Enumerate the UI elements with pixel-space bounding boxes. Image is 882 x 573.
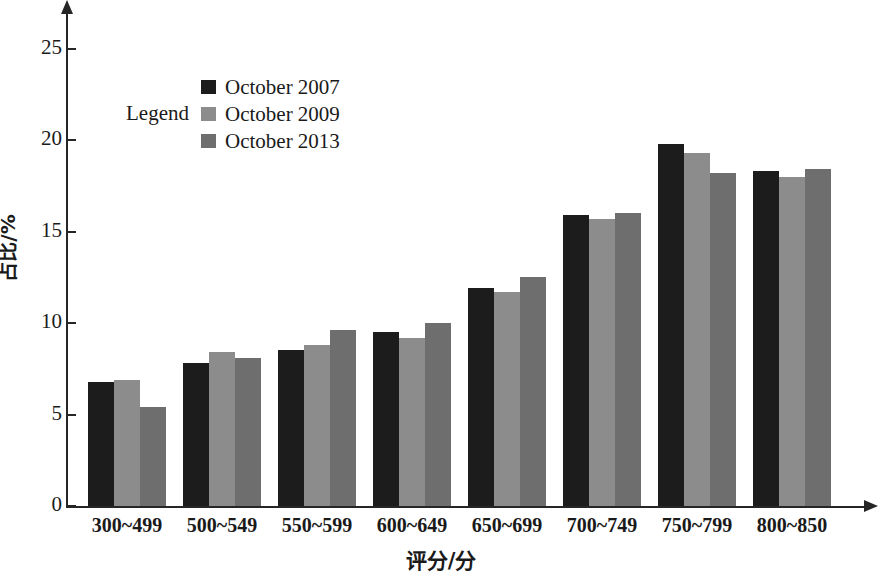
legend: Legend October 2007October 2009October 2… — [126, 74, 340, 153]
bar — [805, 169, 831, 506]
x-axis-arrowhead — [864, 500, 878, 512]
bar — [114, 380, 140, 506]
bar-chart: 0510152025 300~499500~549550~599600~6496… — [0, 0, 882, 573]
bar — [615, 213, 641, 506]
bar — [399, 338, 425, 506]
bar — [520, 277, 546, 506]
bar — [753, 171, 779, 506]
bar — [373, 332, 399, 506]
y-axis-tick-label: 10 — [41, 310, 62, 332]
y-axis-tick: 15 — [68, 231, 76, 233]
bar — [278, 350, 304, 506]
x-axis-title: 评分/分 — [0, 544, 882, 573]
legend-swatch — [201, 107, 216, 121]
bar — [589, 219, 615, 506]
bar — [779, 177, 805, 506]
legend-swatch — [201, 134, 216, 148]
legend-item: October 2009 — [201, 101, 340, 126]
x-axis-tick-label: 800~850 — [712, 514, 872, 537]
bar — [304, 345, 330, 506]
bar-group — [468, 12, 546, 506]
y-axis-tick: 25 — [68, 48, 76, 50]
bar — [468, 288, 494, 506]
y-axis-line — [66, 12, 68, 508]
legend-item: October 2013 — [201, 128, 340, 153]
bar — [425, 323, 451, 506]
legend-label: October 2007 — [225, 76, 340, 98]
bar — [88, 382, 114, 506]
legend-swatch — [201, 80, 216, 94]
bar-group — [658, 12, 736, 506]
bar — [209, 352, 235, 506]
y-axis-tick: 10 — [68, 322, 76, 324]
bar — [658, 144, 684, 506]
y-axis-tick-label: 0 — [52, 493, 63, 515]
y-axis-tick-label: 15 — [41, 219, 62, 241]
bar — [563, 215, 589, 506]
y-axis-tick-label: 20 — [41, 127, 62, 149]
bar — [494, 292, 520, 506]
x-axis-line — [66, 506, 866, 508]
bar-group — [753, 12, 831, 506]
legend-title: Legend — [126, 101, 189, 126]
legend-item: October 2007 — [201, 74, 340, 99]
y-axis-tick: 5 — [68, 414, 76, 416]
bar-group — [563, 12, 641, 506]
y-axis-arrowhead — [61, 0, 73, 14]
y-axis-tick-label: 5 — [52, 402, 63, 424]
bar-group — [373, 12, 451, 506]
y-axis-title: 占比/% — [0, 214, 21, 281]
legend-label: October 2013 — [225, 130, 340, 152]
legend-entries: October 2007October 2009October 2013 — [201, 74, 340, 153]
y-axis-tick: 20 — [68, 139, 76, 141]
legend-label: October 2009 — [225, 103, 340, 125]
y-axis-tick: 0 — [68, 505, 76, 507]
bar — [330, 330, 356, 506]
bar — [684, 153, 710, 506]
bar — [710, 173, 736, 506]
bar — [140, 407, 166, 506]
bar — [183, 363, 209, 506]
y-axis-tick-label: 25 — [41, 36, 62, 58]
bar — [235, 358, 261, 506]
